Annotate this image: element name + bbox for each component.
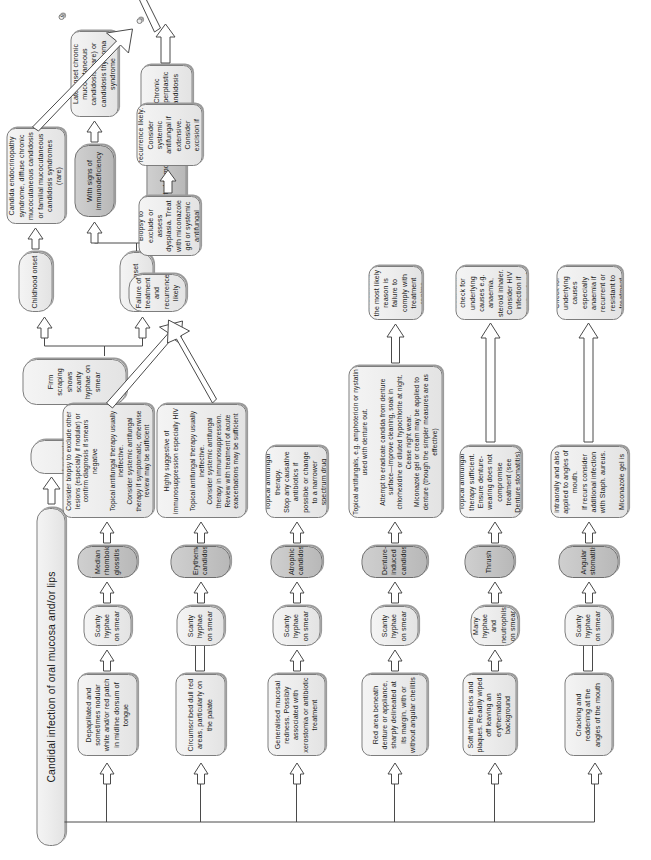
row-5-smear-label: Scanty hyphae on smear [574, 609, 602, 643]
arrow-row-2 [289, 762, 304, 784]
arrow-row-0-diagnosis-to-treatment [99, 521, 114, 543]
row-5-sign: Cracking and reddening at the angles of … [564, 674, 612, 756]
row-1-diagnosis-label: Erythematous candidosis [191, 549, 210, 575]
row-4-sign-label: Soft white flecks and plaques. Readily w… [466, 677, 513, 753]
row-1-smear: Scanty hyphae on smear [176, 606, 224, 646]
row-4-treatment: Topical antifungal therapy sufficient. E… [459, 446, 521, 518]
row-5-outcome: Check for underlying causes especially a… [556, 266, 622, 320]
row-3-sign: Red area beneath denture or appliance, s… [361, 674, 427, 756]
row-0-sign: Depapillated and sometimes nodular white… [77, 674, 137, 756]
arrow-row-3-to-outcome [386, 323, 404, 363]
row-1-smear-label: Scanty hyphae on smear [186, 609, 214, 643]
row-5-treatment-label: Topical antifungals intraorally and also… [550, 449, 628, 515]
row-0-treatment: Consider biopsy to exclude other lesions… [62, 404, 153, 518]
node-hyperplastic-outcome-label: Failure of treatment and recurrence like… [136, 107, 202, 163]
arrow-row-3-diagnosis-to-treatment [387, 521, 402, 543]
node-leukoplakia-smear-label: Firm scraping shows scanty hyphae on sme… [46, 362, 102, 402]
row-4-smear: Many hyphae and neutrophils on smear [470, 606, 518, 646]
arrow-row-0 [99, 762, 114, 784]
node-childhood-diagnosis-label: Candida endocrinopathy syndrome, diffuse… [7, 131, 63, 221]
row-5-diagnosis: Angular stomatitis [558, 546, 618, 578]
row-2-diagnosis: Atrophic candidosis [270, 546, 322, 578]
arrow-childhood-to-diagnosis [27, 227, 43, 249]
row-0-smear-label: Scanty hyphae on smear [93, 609, 121, 643]
arrow-row-5-smear-to-diagnosis [581, 581, 596, 603]
arrow-root-to-leukoplakia [42, 476, 60, 504]
row-3-smear-label: Scanty hyphae on smear [380, 609, 408, 643]
row-2-diagnosis-label: Atrophic candidosis [287, 549, 306, 575]
arrow-row-0-smear-to-diagnosis [99, 581, 114, 603]
row-4-diagnosis-label: Thrush [484, 549, 493, 575]
node-with-immunodeficiency: With signs of immunodeficiency [74, 145, 114, 217]
row-0-1-outcome: Failure of treatment and recurrence like… [128, 274, 186, 312]
flowchart-page: Candidal infection of oral mucosa and/or… [0, 0, 651, 860]
node-root-label: Candidal infection of oral mucosa and/or… [44, 511, 58, 843]
row-5-smear: Scanty hyphae on smear [564, 606, 612, 646]
row-2-treatment-label: Topical antifungal therapy. Stop any cau… [265, 449, 327, 515]
node-root: Candidal infection of oral mucosa and/or… [36, 508, 65, 846]
row-3-diagnosis-label: Denture-induced candidosis [380, 549, 408, 575]
arrow-row-1-to-failure [150, 313, 220, 405]
row-3-treatment-label: Topical antifungals, e.g. amphotericin o… [351, 369, 438, 515]
row-5-treatment: Topical antifungals intraorally and also… [550, 446, 628, 518]
arrow-row-5-diagnosis-to-treatment [581, 521, 596, 543]
arrow-row-3-sign-to-smear [387, 649, 402, 671]
row-2-sign: Generalised mucosal redness. Possibly as… [267, 674, 325, 756]
node-hyperplastic-treatment: Biopsy to exclude or assess dysplasia. T… [138, 196, 200, 256]
row-2-treatment: Topical antifungal therapy. Stop any cau… [265, 446, 327, 518]
arrow-row-3-smear-to-diagnosis [387, 581, 402, 603]
arrow-row-4-diagnosis-to-treatment [487, 521, 502, 543]
arrow-row-1 [193, 762, 208, 784]
node-hyperplastic-treatment-label: Biopsy to exclude or assess dysplasia. T… [138, 199, 200, 253]
row-3-sign-label: Red area beneath denture or appliance, s… [371, 677, 418, 753]
row-4-smear-label: Many hyphae and neutrophils on smear [471, 609, 518, 643]
row-2-sign-label: Generalised mucosal redness. Possibly as… [273, 677, 320, 753]
node-childhood-onset-label: Childhood onset [30, 255, 39, 309]
row-4-sign: Soft white flecks and plaques. Readily w… [462, 674, 516, 756]
row-3-outcome-label: If recurrent, the most likely reason is … [368, 269, 422, 317]
node-childhood-onset: Childhood onset [18, 252, 52, 312]
arrow-row-4-smear-to-diagnosis [487, 581, 502, 603]
row-1-diagnosis: Erythematous candidosis [170, 546, 230, 578]
row-0-smear: Scanty hyphae on smear [83, 606, 131, 646]
row-0-1-outcome-label: Failure of treatment and recurrence like… [134, 277, 181, 309]
row-2-smear-label: Scanty hyphae on smear [282, 609, 310, 643]
node-hyperplastic-treatment: Biopsy to exclude or assess dysplasia. T… [136, 18, 142, 24]
row-1-sign-label: Circumscribed dull red areas, particular… [186, 677, 214, 753]
arrow-row-4 [487, 762, 502, 784]
row-1-treatment-label: Highly suggestive of immunosuppression e… [162, 407, 240, 515]
row-0-sign-label: Depapillated and sometimes nodular white… [84, 677, 131, 753]
row-4-diagnosis: Thrush [464, 546, 514, 578]
row-1-sign: Circumscribed dull red areas, particular… [175, 674, 225, 756]
arrow-row-2-smear-to-diagnosis [289, 581, 304, 603]
row-2-smear: Scanty hyphae on smear [272, 606, 320, 646]
arrow-row-4-sign-to-smear [487, 649, 502, 671]
arrow-hyperplastic-to-biopsy [155, 23, 175, 63]
arrow-immunodeficiency-to-resistance [96, 0, 156, 34]
arrow-fork-childhood [36, 316, 52, 338]
node-hyperplastic-outcome: Failure of treatment and recurrence like… [136, 104, 202, 166]
row-0-diagnosis: Median rhomboid glossitis [77, 546, 137, 578]
arrow-row-3 [387, 762, 402, 784]
row-4-outcome: If recurrent or resistant to treatment c… [455, 266, 527, 320]
arrow-row-2-diagnosis-to-treatment [289, 521, 304, 543]
flowchart-stage: Candidal infection of oral mucosa and/or… [0, 0, 651, 860]
arrow-row-0-sign-to-smear [99, 649, 114, 671]
arrow-row-1-diagnosis-to-treatment [193, 521, 208, 543]
row-0-diagnosis-label: Median rhomboid glossitis [93, 549, 121, 575]
node-resistance-treatment-final: Resistance to treatment. Monitor for ass… [58, 14, 64, 20]
arrow-row-4-to-outcome [480, 322, 500, 442]
node-with-immunodeficiency-label: With signs of immunodeficiency [85, 148, 104, 214]
row-3-smear: Scanty hyphae on smear [370, 606, 418, 646]
row-4-treatment-label: Topical antifungal therapy sufficient. E… [459, 449, 521, 515]
connector-root-trunk [64, 764, 604, 824]
row-5-outcome-label: Check for underlying causes especially a… [556, 269, 622, 317]
arrow-row-1-smear-to-diagnosis [193, 581, 208, 603]
arrow-hyperplastic-treatment-to-outcome [159, 169, 176, 193]
node-childhood-diagnosis: Candida endocrinopathy syndrome, diffuse… [6, 128, 65, 224]
row-3-diagnosis: Denture-induced candidosis [361, 546, 427, 578]
row-5-diagnosis-label: Angular stomatitis [579, 549, 598, 575]
row-5-sign-label: Cracking and reddening at the angles of … [574, 677, 602, 753]
arrow-row-5 [587, 762, 602, 784]
arrow-row-2-sign-to-smear [289, 649, 304, 671]
